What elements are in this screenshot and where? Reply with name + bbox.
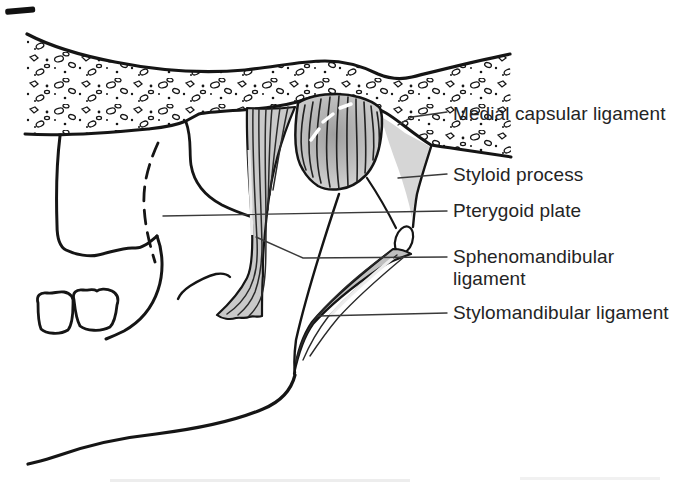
capsule-dome	[295, 94, 382, 190]
label-pterygoid-plate: Pterygoid plate	[453, 200, 581, 222]
maxilla-outline	[57, 136, 157, 256]
molar-teeth	[37, 289, 117, 333]
styloid-left-edge	[367, 178, 396, 228]
stylomandibular-outline	[294, 249, 411, 374]
stylomandibular-striations	[296, 253, 404, 362]
label-stylomandibular-ligament: Stylomandibular ligament	[453, 302, 669, 324]
leader-stylomandibular-ligament	[318, 313, 447, 316]
molar-tooth	[73, 289, 117, 330]
scan-smudges	[110, 477, 660, 482]
mandible-lower-border	[28, 375, 295, 464]
molar-tooth	[37, 292, 73, 333]
label-medial-capsular-ligament: Medial capsular ligament	[453, 103, 666, 125]
sphenomandibular-ligament-band	[217, 107, 295, 319]
leader-pterygoid-plate	[163, 211, 447, 216]
label-styloid-process: Styloid process	[453, 164, 583, 186]
label-sphenomandibular-ligament: Sphenomandibular ligament	[453, 246, 603, 290]
diagram-art	[0, 0, 695, 487]
scan-mark	[5, 6, 35, 15]
stylomandibular-ligament-band	[294, 249, 411, 374]
stylomandibular-highlight	[330, 258, 393, 316]
anatomical-diagram: Medial capsular ligament Styloid process…	[0, 0, 695, 487]
ramus-anterior-curve	[186, 122, 252, 217]
leader-sphenomandibular-ligament	[256, 237, 447, 258]
lingula-curve	[178, 274, 230, 299]
